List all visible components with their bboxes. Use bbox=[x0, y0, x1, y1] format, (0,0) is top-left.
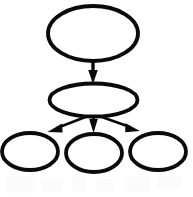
scan-artifact-group bbox=[6, 175, 182, 193]
node-leaf-left[interactable] bbox=[2, 133, 58, 170]
scan-artifact-blob bbox=[96, 179, 114, 191]
arrowhead-icon bbox=[89, 119, 98, 133]
scan-artifact-blob bbox=[6, 176, 36, 193]
node-leaf-left-ellipse bbox=[2, 133, 58, 170]
node-root[interactable] bbox=[48, 6, 138, 61]
diagram-canvas bbox=[0, 0, 193, 197]
arrowhead-icon bbox=[48, 124, 63, 133]
node-leaf-center[interactable] bbox=[66, 134, 122, 172]
scan-artifact-blob bbox=[41, 178, 63, 192]
scan-artifact-blob bbox=[72, 175, 86, 191]
scan-artifact-blob bbox=[124, 177, 150, 192]
node-leaf-center-ellipse bbox=[66, 134, 122, 172]
arrowhead-icon bbox=[125, 123, 140, 132]
node-leaf-right[interactable] bbox=[130, 133, 186, 170]
node-leaf-right-ellipse bbox=[130, 133, 186, 170]
node-mid-ellipse bbox=[50, 84, 138, 117]
edge-mid-to-leaf-left[interactable] bbox=[48, 116, 89, 133]
node-root-ellipse bbox=[48, 6, 138, 61]
node-group bbox=[2, 6, 186, 172]
edge-root-to-mid[interactable] bbox=[88, 61, 98, 84]
node-mid[interactable] bbox=[50, 84, 138, 117]
edge-mid-to-leaf-right[interactable] bbox=[99, 116, 140, 132]
scan-artifact-blob bbox=[158, 176, 182, 190]
diagram-svg bbox=[0, 0, 193, 197]
